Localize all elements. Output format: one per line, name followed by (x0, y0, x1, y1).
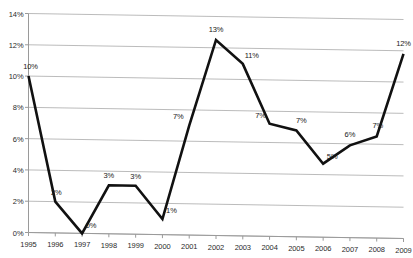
data-label-1997: 0% (86, 221, 97, 230)
x-axis-tick-2002: 2002 (208, 243, 224, 252)
y-axis-tick-2: 2% (0, 197, 24, 206)
data-label-1999: 3% (130, 171, 141, 180)
x-axis-tick-2000: 2000 (154, 242, 170, 251)
chart-container: 0%2%4%6%8%10%12%14% 19951996199719981999… (0, 0, 413, 258)
y-axis-tick-8: 8% (0, 103, 24, 112)
y-axis-tick-6: 6% (0, 134, 24, 143)
data-label-2002: 13% (209, 24, 224, 33)
data-label-2000: 1% (166, 206, 177, 215)
x-axis-tick-2004: 2004 (261, 243, 277, 252)
data-label-2006: 5% (327, 151, 338, 160)
data-label-2004: 7% (255, 110, 266, 119)
x-axis-tick-2005: 2005 (288, 244, 304, 253)
data-label-2009: 12% (396, 38, 411, 47)
y-axis-tick-marks (25, 14, 29, 233)
x-axis-tick-2001: 2001 (181, 242, 197, 251)
x-axis-tick-2008: 2008 (369, 245, 385, 254)
x-axis-tick-1996: 1996 (47, 240, 63, 249)
x-axis-tick-1995: 1995 (20, 240, 36, 249)
x-axis-tick-2009: 2009 (395, 246, 411, 255)
data-label-2001: 7% (173, 111, 184, 120)
x-axis-tick-1997: 1997 (74, 240, 90, 249)
x-axis-tick-2006: 2006 (315, 244, 331, 253)
gridlines (29, 14, 404, 239)
x-axis-tick-1999: 1999 (127, 241, 143, 250)
data-label-2008: 7% (372, 121, 383, 130)
x-axis-tick-1998: 1998 (101, 241, 117, 250)
y-axis-tick-12: 12% (0, 40, 24, 49)
y-axis-tick-10: 10% (0, 72, 24, 81)
data-label-2003: 11% (245, 50, 259, 59)
data-label-1995: 10% (23, 62, 38, 71)
data-label-1996: 2% (51, 187, 62, 196)
data-label-1998: 3% (104, 171, 115, 180)
x-axis-tick-2007: 2007 (342, 245, 358, 254)
data-label-2007: 6% (345, 130, 356, 139)
data-label-2005: 7% (296, 116, 307, 125)
axis-lines (29, 14, 404, 239)
y-axis-tick-0: 0% (0, 228, 24, 237)
y-axis-tick-14: 14% (0, 9, 24, 18)
x-axis-tick-2003: 2003 (235, 243, 251, 252)
y-axis-tick-4: 4% (0, 165, 24, 174)
